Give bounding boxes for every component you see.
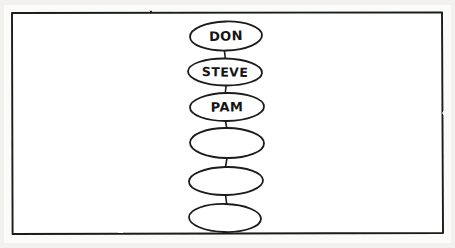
node-empty-4-outline <box>190 128 264 159</box>
screenshot-root: DON STEVE PAM <box>0 0 455 248</box>
node-empty-5-outline <box>189 166 264 196</box>
node-pam-label: PAM <box>211 99 244 114</box>
node-empty-4[interactable] <box>190 128 264 159</box>
node-empty-5[interactable] <box>189 166 264 196</box>
node-steve-label: STEVE <box>202 64 249 80</box>
drawing-surface: DON STEVE PAM <box>0 0 455 248</box>
node-don-label: DON <box>209 28 243 44</box>
sketch-canvas: DON STEVE PAM <box>0 0 455 248</box>
node-steve[interactable]: STEVE <box>188 58 262 86</box>
node-pam[interactable]: PAM <box>190 92 264 121</box>
